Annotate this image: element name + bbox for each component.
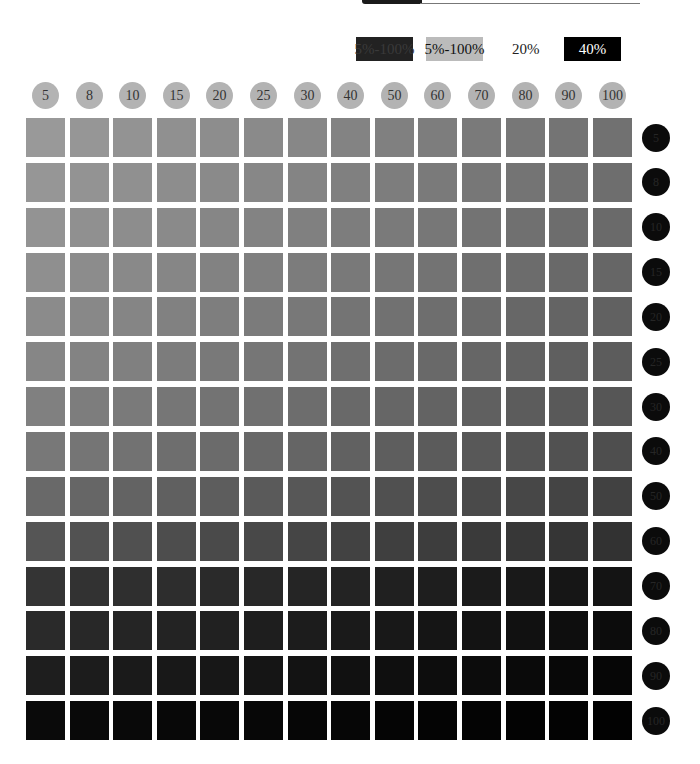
swatch-cell [113, 567, 152, 606]
swatch-cell [418, 387, 457, 426]
swatch-cell [375, 208, 414, 247]
swatch-cell [506, 387, 545, 426]
swatch-cell [418, 208, 457, 247]
swatch-cell [331, 163, 370, 202]
swatch-cell [288, 118, 327, 157]
swatch-cell [200, 656, 239, 695]
swatch-cell [157, 432, 196, 471]
swatch-cell [113, 208, 152, 247]
swatch-cell [70, 118, 109, 157]
swatch-cell [200, 522, 239, 561]
swatch-cell [200, 611, 239, 650]
swatch-cell [549, 387, 588, 426]
swatch-cell [26, 387, 65, 426]
swatch-cell [288, 297, 327, 336]
swatch-cell [200, 477, 239, 516]
swatch-cell [462, 297, 501, 336]
swatch-cell [418, 701, 457, 740]
top-cutoff-tab [362, 0, 422, 4]
swatch-cell [157, 163, 196, 202]
row-header: 25 [642, 348, 670, 376]
swatch-cell [244, 163, 283, 202]
swatch-cell [462, 477, 501, 516]
swatch-cell [549, 342, 588, 381]
swatch-cell [549, 432, 588, 471]
swatch-cell [418, 567, 457, 606]
row-header: 90 [642, 662, 670, 690]
swatch-cell [200, 118, 239, 157]
swatch-cell [26, 342, 65, 381]
swatch-cell [288, 253, 327, 292]
swatch-cell [375, 253, 414, 292]
swatch-cell [26, 253, 65, 292]
swatch-cell [288, 701, 327, 740]
swatch-cell [462, 567, 501, 606]
swatch-cell [331, 522, 370, 561]
swatch-cell [462, 656, 501, 695]
legend-item: 40% [564, 37, 621, 61]
swatch-cell [593, 387, 632, 426]
swatch-cell [375, 387, 414, 426]
swatch-cell [157, 208, 196, 247]
swatch-cell [244, 701, 283, 740]
swatch-cell [549, 477, 588, 516]
swatch-cell [549, 118, 588, 157]
row-header: 8 [642, 168, 670, 196]
swatch-cell [26, 522, 65, 561]
row-header: 100 [642, 707, 670, 735]
swatch-cell [506, 118, 545, 157]
swatch-cell [70, 297, 109, 336]
swatch-cell [375, 522, 414, 561]
swatch-cell [70, 432, 109, 471]
swatch-cell [331, 477, 370, 516]
swatch-cell [288, 208, 327, 247]
swatch-cell [418, 118, 457, 157]
swatch-cell [200, 297, 239, 336]
swatch-cell [593, 118, 632, 157]
swatch-cell [113, 163, 152, 202]
swatch-cell [157, 656, 196, 695]
column-header: 20 [206, 82, 233, 109]
swatch-cell [113, 477, 152, 516]
swatch-cell [593, 656, 632, 695]
swatch-cell [244, 477, 283, 516]
swatch-cell [506, 656, 545, 695]
swatch-cell [157, 118, 196, 157]
swatch-cell [288, 522, 327, 561]
swatch-cell [288, 342, 327, 381]
column-header: 40 [337, 82, 364, 109]
swatch-cell [593, 477, 632, 516]
swatch-cell [331, 611, 370, 650]
swatch-cell [244, 118, 283, 157]
swatch-cell [113, 656, 152, 695]
swatch-cell [244, 522, 283, 561]
swatch-cell [593, 611, 632, 650]
swatch-cell [113, 432, 152, 471]
swatch-cell [549, 297, 588, 336]
row-header: 30 [642, 393, 670, 421]
row-header: 15 [642, 258, 670, 286]
swatch-cell [288, 477, 327, 516]
swatch-cell [418, 253, 457, 292]
swatch-cell [375, 118, 414, 157]
swatch-cell [418, 477, 457, 516]
swatch-cell [244, 208, 283, 247]
swatch-cell [375, 611, 414, 650]
swatch-cell [549, 656, 588, 695]
swatch-cell [288, 387, 327, 426]
swatch-cell [462, 163, 501, 202]
swatch-cell [549, 567, 588, 606]
swatch-cell [331, 701, 370, 740]
swatch-cell [70, 611, 109, 650]
swatch-cell [26, 567, 65, 606]
swatch-cell [418, 163, 457, 202]
column-header: 70 [468, 82, 495, 109]
swatch-cell [506, 567, 545, 606]
swatch-cell [157, 611, 196, 650]
swatch-cell [375, 701, 414, 740]
swatch-cell [26, 432, 65, 471]
swatch-cell [593, 567, 632, 606]
swatch-cell [462, 253, 501, 292]
swatch-cell [244, 253, 283, 292]
swatch-cell [157, 387, 196, 426]
